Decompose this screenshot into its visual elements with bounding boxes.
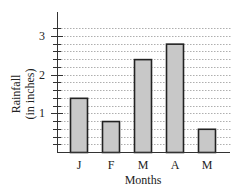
bar-A <box>167 44 184 152</box>
x-tick-label: F <box>108 158 115 172</box>
x-axis-label: Months <box>125 173 162 188</box>
bar-F <box>103 122 120 153</box>
y-tick-label: 3 <box>39 29 45 43</box>
x-tick-label: A <box>171 158 180 172</box>
bar-M <box>135 60 152 153</box>
y-axis-label: Rainfall (in inches) <box>9 69 37 120</box>
y-tick-label: 2 <box>39 68 45 82</box>
rainfall-bar-chart: 123JFMAM Rainfall (in inches) Months <box>0 0 239 191</box>
bar-M <box>199 129 216 152</box>
x-tick-label: M <box>138 158 149 172</box>
bar-J <box>71 98 88 152</box>
y-axis-label-line-1: Rainfall <box>9 69 23 120</box>
x-tick-label: J <box>77 158 82 172</box>
y-tick-label: 1 <box>39 106 45 120</box>
y-axis-label-line-2: (in inches) <box>23 69 37 120</box>
x-tick-label: M <box>202 158 213 172</box>
